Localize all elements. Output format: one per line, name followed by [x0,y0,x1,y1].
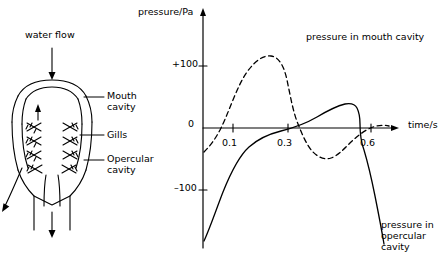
series-opercular-cavity-curve [204,104,384,244]
opercular-cavity-label: Opercular cavity [107,153,154,175]
annotation-mouth-cavity: pressure in mouth cavity [306,31,424,42]
water-exit-arrow-left [2,168,22,212]
figure-container: water flow Mouth cavity Gills Opercular … [0,0,445,258]
x-axis-title: time/s [408,119,438,130]
x-tick-label-0-3: 0.3 [277,137,292,148]
mouth-cavity-label: Mouth cavity [107,90,137,112]
water-flow-label: water flow [25,29,75,40]
x-tick-label-0-6: 0.6 [360,137,375,148]
gill-flow-arrow [35,104,41,120]
x-tick-label-0-1: 0.1 [222,137,237,148]
water-flow-arrow [49,48,56,80]
water-exit-arrow-bottom [49,212,56,238]
y-axis-title: pressure/Pa [138,6,193,17]
gills-label: Gills [107,129,127,140]
fish-head-diagram [0,0,160,258]
gill-arches-left [26,123,42,173]
gill-arches-right [62,123,78,173]
y-tick-label-zero: 0 [188,118,194,129]
annotation-opercular-cavity: pressure in opercular cavity [381,219,434,252]
y-tick-label-minus100: –100 [174,182,197,193]
y-tick-label-plus100: +100 [172,58,198,69]
